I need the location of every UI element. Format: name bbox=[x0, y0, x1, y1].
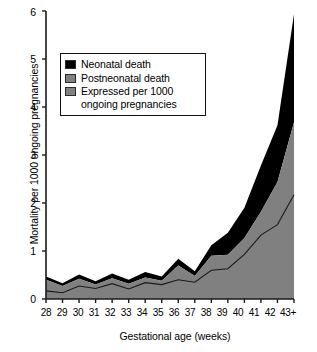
chart-figure: Mortality per 1000 ongoing pregnancies G… bbox=[0, 0, 317, 352]
legend-swatch-black-icon bbox=[65, 60, 76, 69]
legend-swatch-gray-icon bbox=[65, 74, 76, 83]
legend-label-expressed: Expressed per 1000 ongoing pregnancies bbox=[81, 85, 177, 110]
legend-label-postneonatal: Postneonatal death bbox=[81, 72, 170, 85]
legend-swatch-gray2-icon bbox=[65, 87, 76, 96]
legend-item-expressed: Expressed per 1000 ongoing pregnancies bbox=[65, 85, 200, 110]
chart-legend: Neonatal death Postneonatal death Expres… bbox=[60, 53, 206, 116]
legend-label-neonatal: Neonatal death bbox=[81, 58, 151, 71]
legend-item-neonatal: Neonatal death bbox=[65, 58, 200, 71]
legend-item-postneonatal: Postneonatal death bbox=[65, 72, 200, 85]
